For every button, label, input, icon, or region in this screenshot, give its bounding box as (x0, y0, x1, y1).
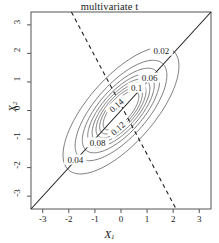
contour-label: 0.1 (128, 83, 146, 93)
x-axis-label: X1 (0, 228, 219, 241)
major-axis-line (31, 12, 211, 209)
x-tick-label: 2 (164, 214, 182, 224)
y-tick-label: 2 (12, 42, 22, 58)
svg-text:0.08: 0.08 (90, 138, 106, 148)
contour-label: 0.08 (86, 137, 109, 147)
y-axis-label: X2 (6, 87, 19, 127)
minor-axis-line (71, 12, 176, 209)
x-tick-label: -1 (86, 214, 104, 224)
chart-canvas: 0.020.060.10.140.120.080.04 (0, 0, 219, 243)
contour-label: 0.04 (64, 155, 87, 165)
svg-text:0.02: 0.02 (154, 46, 170, 56)
y-tick-label: -3 (12, 185, 22, 201)
x-tick-label: 0 (112, 214, 130, 224)
y-tick-label: 3 (12, 14, 22, 30)
chart-figure: multivariate t 0.020.060.10.140.120.080.… (0, 0, 219, 243)
svg-text:0.06: 0.06 (142, 73, 158, 83)
y-tick-label: -1 (12, 128, 22, 144)
y-tick-label: -2 (12, 157, 22, 173)
contour-label: 0.02 (150, 46, 173, 56)
y-tick-label: 1 (12, 71, 22, 87)
contour-label: 0.06 (138, 73, 161, 83)
x-tick-label: 3 (190, 214, 208, 224)
x-tick-label: 1 (138, 214, 156, 224)
svg-text:0.1: 0.1 (131, 83, 142, 93)
x-tick-label: -3 (34, 214, 52, 224)
svg-text:0.04: 0.04 (67, 155, 83, 165)
x-tick-label: -2 (60, 214, 78, 224)
